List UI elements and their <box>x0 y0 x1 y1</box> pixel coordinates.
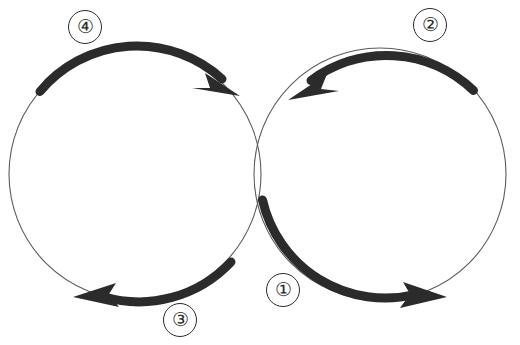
step-label-4: ④ <box>68 10 102 44</box>
arc-4-group <box>40 46 240 96</box>
arc-4-path <box>40 46 222 92</box>
cycle-diagram-svg <box>0 0 520 345</box>
arc-3-group <box>73 262 231 307</box>
arc-3-path <box>103 262 231 302</box>
arc-2-group <box>288 55 474 100</box>
diagram-canvas: ④ ② ① ③ <box>0 0 520 345</box>
arc-2-path <box>311 55 474 90</box>
step-label-2: ② <box>413 8 447 42</box>
step-label-3: ③ <box>163 303 197 337</box>
step-label-1: ① <box>266 273 300 307</box>
